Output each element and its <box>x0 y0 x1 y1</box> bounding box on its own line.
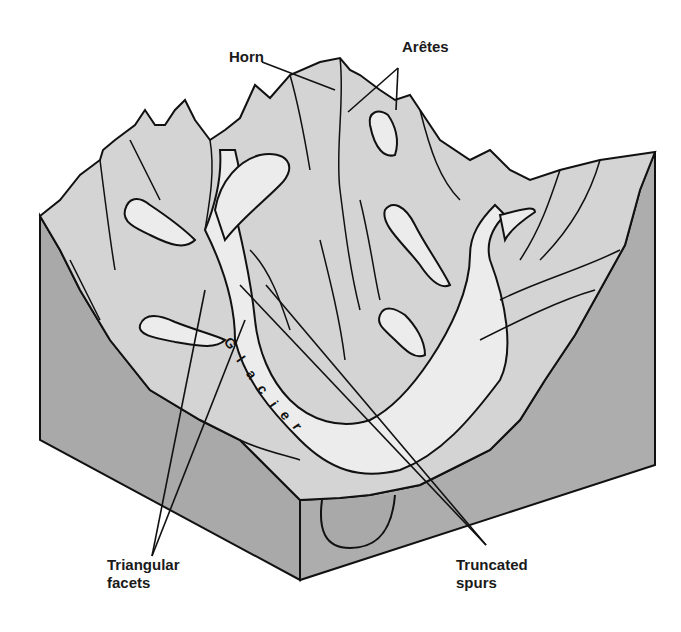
label-truncated-spurs: Truncated spurs <box>456 556 528 592</box>
label-horn: Horn <box>229 48 264 66</box>
label-triangular-facets: Triangular facets <box>107 556 180 592</box>
glacial-valley-diagram: G l a c i e r Horn Arêtes Triangular fac… <box>0 0 681 632</box>
block-diagram-drawing <box>0 0 681 632</box>
label-aretes: Arêtes <box>402 38 449 56</box>
